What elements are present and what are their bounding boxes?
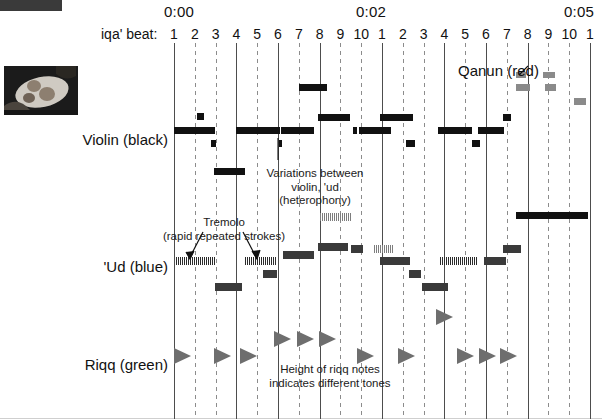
beat-label-6: 6 — [274, 26, 282, 42]
beat-label-1: 1 — [170, 26, 178, 42]
time-tick-0: 0:00 — [164, 3, 194, 20]
violin-black-note — [198, 127, 205, 134]
riqq-note — [240, 348, 257, 364]
gridline-beat-14 — [444, 43, 445, 419]
ud-blue-note — [380, 257, 410, 265]
ud-blue-note — [409, 270, 421, 278]
riqq-note — [500, 348, 517, 364]
violin-black-note — [211, 140, 216, 147]
violin-black-note — [503, 114, 511, 121]
header-slug — [0, 0, 62, 11]
beat-label-12: 2 — [399, 26, 407, 42]
ud-blue-note — [215, 283, 242, 291]
violin-black-note — [236, 127, 280, 134]
ud-blue-note — [440, 257, 478, 265]
row-label-violin: Violin (black) — [0, 131, 168, 148]
violin-black-note — [516, 212, 588, 219]
beat-label-8: 8 — [316, 26, 324, 42]
gridline-beat-21 — [590, 43, 591, 419]
gridline-beat-18 — [528, 43, 529, 419]
riqq-note — [436, 309, 453, 325]
violin-black-note — [359, 127, 391, 134]
beat-label-7: 7 — [295, 26, 303, 42]
violin-black-note — [380, 114, 413, 121]
beat-label-5: 5 — [253, 26, 261, 42]
gridline-beat-19 — [548, 43, 549, 419]
violin-black-note — [406, 140, 415, 147]
riqq-note — [479, 348, 496, 364]
beat-label-9: 9 — [336, 26, 344, 42]
gridline-beat-20 — [569, 43, 570, 419]
violin-black-note — [466, 127, 472, 134]
ud-blue-note — [422, 283, 448, 291]
ud-blue-note — [351, 245, 363, 253]
ud-blue-note — [484, 257, 506, 265]
ud-blue-note — [283, 251, 314, 259]
riqq-note — [174, 348, 191, 364]
violin-black-note — [299, 84, 327, 91]
riqq-note — [457, 348, 474, 364]
riqq-note — [357, 348, 374, 364]
violin-black-note — [279, 140, 282, 147]
row-label-riqq: Riqq (green) — [0, 356, 168, 373]
violin-black-note — [478, 127, 504, 134]
riqq-note — [319, 331, 336, 347]
ud-blue-note — [263, 270, 277, 278]
ud-blue-note — [374, 245, 394, 253]
beat-label-20: 10 — [561, 26, 577, 42]
qanun-red-note — [516, 84, 530, 91]
beat-label-4: 4 — [232, 26, 240, 42]
violin-black-note — [472, 140, 480, 147]
ud-blue-note — [245, 257, 276, 265]
beat-label-21: 1 — [586, 26, 594, 42]
beat-axis-title: iqa' beat: — [101, 26, 157, 42]
riqq-note — [274, 331, 291, 347]
ud-blue-note — [318, 243, 348, 251]
row-label-qanun: Qanun (red) — [458, 62, 539, 79]
time-tick-2: 0:05 — [564, 3, 594, 20]
violin-black-note — [174, 127, 215, 134]
qanun-red-note — [543, 72, 555, 78]
row-label-ud: 'Ud (blue) — [0, 258, 168, 275]
violin-black-note — [197, 113, 204, 120]
ud-blue-note — [176, 257, 216, 265]
annotation-tremolo: Tremolo (rapid repeated strokes) — [149, 216, 299, 243]
violin-black-note — [353, 127, 357, 134]
violin-black-note — [438, 127, 468, 134]
qanun-red-note — [545, 84, 556, 91]
figure-root: iqa' beat: 0:000:020:05 1234567891012345… — [0, 0, 602, 419]
beat-label-19: 9 — [544, 26, 552, 42]
beat-label-10: 10 — [353, 26, 369, 42]
beat-label-2: 2 — [191, 26, 199, 42]
gridline-beat-13 — [424, 43, 425, 419]
riqq-note — [214, 348, 231, 364]
riqq-note — [297, 331, 314, 347]
ud-blue-note — [320, 213, 352, 221]
ud-blue-note — [503, 245, 521, 253]
beat-label-11: 1 — [378, 26, 386, 42]
beat-label-3: 3 — [212, 26, 220, 42]
annotation-heterophony: Variations between violin, 'ud (heteroph… — [240, 167, 390, 208]
riqq-note — [398, 348, 415, 364]
violin-black-note — [318, 114, 350, 121]
qanun-red-note — [574, 98, 586, 105]
beat-label-15: 5 — [461, 26, 469, 42]
violin-black-note — [281, 127, 314, 134]
annotation-riqq-height: Height of riqq notes indicates different… — [255, 363, 405, 390]
beat-label-13: 3 — [420, 26, 428, 42]
beat-label-17: 7 — [503, 26, 511, 42]
beat-label-14: 4 — [440, 26, 448, 42]
beat-label-16: 6 — [482, 26, 490, 42]
time-tick-1: 0:02 — [356, 3, 386, 20]
beat-label-18: 8 — [524, 26, 532, 42]
